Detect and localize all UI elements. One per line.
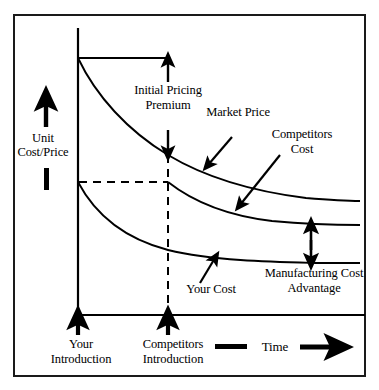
- your-cost-curve: [78, 182, 360, 263]
- competitors-cost-curve: [168, 182, 360, 225]
- y-axis-bar: [44, 168, 49, 190]
- y-axis-label: Unit Cost/Price: [6, 131, 80, 159]
- competitors-introduction-label: Competitors Introduction: [122, 337, 224, 366]
- market-price-label: Market Price: [206, 105, 270, 120]
- market-price-pointer-arrow: [208, 137, 232, 165]
- competitors-cost-pointer-arrow: [240, 155, 280, 205]
- initial-pricing-premium-label: Initial Pricing Premium: [134, 83, 202, 112]
- your-introduction-label: Your Introduction: [38, 337, 124, 366]
- manufacturing-cost-advantage-label: Manufacturing Cost Advantage: [258, 266, 370, 295]
- your-cost-label: Your Cost: [178, 283, 244, 297]
- competitors-cost-label: Competitors Cost: [262, 127, 342, 156]
- chart-canvas: [0, 0, 379, 390]
- time-axis-label: Time: [254, 340, 296, 354]
- your-cost-pointer-arrow: [200, 258, 215, 283]
- cost-price-experience-curve-figure: Unit Cost/Price Initial Pricing Premium …: [0, 0, 379, 390]
